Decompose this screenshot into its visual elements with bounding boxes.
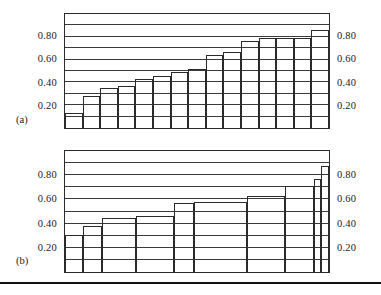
plot-area-b: [65, 151, 329, 272]
y-axis-tick-label-left: 0.60: [38, 194, 57, 205]
y-axis-tick-label-left: 0.80: [38, 31, 57, 42]
chart-panel-a: 0.200.200.400.400.600.600.800.80 (a): [0, 0, 381, 145]
chart-panel-b: 0.200.200.400.400.600.600.800.80 (b): [0, 137, 381, 282]
gridline: [65, 36, 329, 37]
bar: [118, 86, 136, 128]
bar: [83, 96, 101, 128]
bar: [311, 30, 329, 128]
figure-container: 0.200.200.400.400.600.600.800.80 (a) 0.2…: [0, 0, 381, 295]
y-axis-tick-label-left: 0.80: [38, 170, 57, 181]
y-axis-tick-label-right: 0.20: [337, 243, 356, 254]
bottom-horizontal-rule: [0, 282, 381, 284]
bar: [194, 202, 247, 272]
bar: [321, 166, 329, 272]
y-axis-tick-label-left: 0.40: [38, 78, 57, 89]
y-axis-tick-label-right: 0.40: [337, 78, 356, 89]
bar: [100, 88, 118, 128]
plot-area-a: [65, 14, 329, 128]
bar: [188, 69, 206, 128]
panel-label-b: (b): [16, 255, 28, 266]
plot-frame-a: [64, 13, 330, 129]
bar: [65, 235, 83, 273]
bar: [314, 179, 322, 272]
bar: [206, 55, 224, 128]
y-axis-tick-label-right: 0.80: [337, 170, 356, 181]
y-axis-tick-label-right: 0.60: [337, 54, 356, 65]
bar: [247, 196, 286, 272]
bar: [223, 52, 241, 128]
y-axis-tick-label-left: 0.20: [38, 101, 57, 112]
gridline: [65, 24, 329, 25]
panel-label-a: (a): [16, 114, 28, 125]
y-axis-tick-label-left: 0.40: [38, 219, 57, 230]
gridline: [65, 162, 329, 163]
y-axis-tick-label-right: 0.40: [337, 219, 356, 230]
y-axis-tick-label-left: 0.60: [38, 54, 57, 65]
bar: [174, 203, 193, 272]
bar: [259, 38, 277, 128]
y-axis-tick-label-right: 0.20: [337, 101, 356, 112]
y-axis-tick-label-right: 0.60: [337, 194, 356, 205]
bar: [65, 113, 83, 128]
bar: [294, 38, 312, 128]
bar: [276, 38, 294, 128]
bar: [102, 218, 136, 272]
y-axis-tick-label-left: 0.20: [38, 243, 57, 254]
gridline: [65, 174, 329, 175]
bar: [83, 226, 101, 272]
y-axis-tick-label-right: 0.80: [337, 31, 356, 42]
bar: [285, 186, 313, 272]
plot-frame-b: [64, 150, 330, 273]
bar: [241, 41, 259, 128]
bar: [135, 79, 153, 128]
bar: [153, 76, 171, 128]
bar: [136, 216, 175, 272]
bar: [171, 72, 189, 128]
